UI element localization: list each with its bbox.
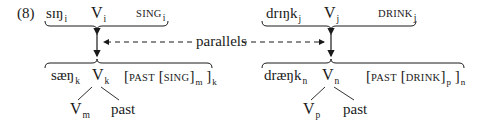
left-top-form: sɪŋi <box>46 6 67 21</box>
left-branch-v <box>78 87 92 100</box>
example-number: (8) <box>17 6 35 21</box>
left-bottom-form: sæŋk <box>51 68 80 83</box>
right-top-gloss: DRINKj <box>378 9 417 20</box>
right-bottom-structure: [PAST [DRINK]p ]n <box>366 69 465 84</box>
right-bottom-form: dræŋkn <box>264 68 307 83</box>
right-top-brace <box>262 21 416 30</box>
left-child-v: Vm <box>70 101 90 117</box>
left-top-v: Vi <box>91 5 106 21</box>
right-top-form: drɪŋkj <box>266 6 301 21</box>
left-top-gloss: SINGi <box>136 9 166 20</box>
right-bottom-v: Vn <box>322 67 339 83</box>
right-top-v: Vj <box>324 5 339 21</box>
left-branch-past <box>101 87 119 100</box>
right-branch-past <box>334 87 354 100</box>
right-branch-v <box>311 87 325 100</box>
left-child-past: past <box>111 102 135 117</box>
right-child-v: Vp <box>303 101 320 117</box>
left-bottom-structure: [PAST [SING]m ]k <box>124 69 217 84</box>
parallels-label: parallels <box>196 34 247 49</box>
right-child-past: past <box>343 102 367 117</box>
left-bottom-v: Vk <box>92 67 109 83</box>
